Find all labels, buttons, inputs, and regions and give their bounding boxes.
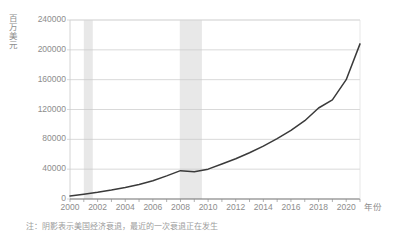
x-axis-unit-label: 年份 (364, 203, 382, 212)
x-axis-tick-labels: 2000200220042006200820102012201420162018… (0, 0, 395, 238)
chart-footnote: 注：阴影表示美国经济衰退，最近的一次衰退正在发生 (26, 222, 218, 232)
x-tick-label: 2020 (329, 203, 363, 212)
chart-figure: 百万美元 04000080000120000160000200000240000… (0, 0, 395, 238)
